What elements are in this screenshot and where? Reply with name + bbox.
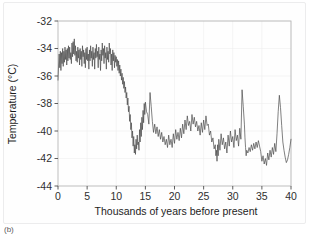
x-tick-label: 10: [110, 190, 122, 202]
chart-container: 0510152025303540 -44-42-40-38-36-34-32 T…: [0, 0, 311, 236]
y-axis-title: Temperature (°C): [6, 64, 18, 145]
y-tick-label: -42: [37, 152, 52, 164]
x-tick-label: 40: [285, 190, 297, 202]
y-tick-label: -36: [37, 70, 52, 82]
x-tick-label: 35: [256, 190, 268, 202]
x-tick-labels: 0510152025303540: [55, 190, 297, 202]
y-tick-labels: -44-42-40-38-36-34-32: [37, 15, 52, 192]
y-tick-label: -38: [37, 97, 52, 109]
x-tick-label: 20: [169, 190, 181, 202]
temperature-line-chart: 0510152025303540 -44-42-40-38-36-34-32 T…: [0, 0, 311, 236]
x-tick-label: 5: [84, 190, 90, 202]
gridlines: [58, 21, 291, 186]
y-tick-label: -34: [37, 42, 52, 54]
tick-marks: [55, 21, 292, 190]
figure-panel: 0510152025303540 -44-42-40-38-36-34-32 T…: [0, 0, 311, 236]
x-tick-label: 30: [227, 190, 239, 202]
x-tick-label: 25: [198, 190, 210, 202]
x-tick-label: 15: [140, 190, 152, 202]
y-tick-label: -32: [37, 15, 52, 27]
y-tick-label: -40: [37, 125, 52, 137]
y-tick-label: -44: [37, 180, 52, 192]
figure-caption: (b): [4, 225, 14, 234]
x-axis-title: Thousands of years before present: [95, 205, 258, 217]
x-tick-label: 0: [55, 190, 61, 202]
